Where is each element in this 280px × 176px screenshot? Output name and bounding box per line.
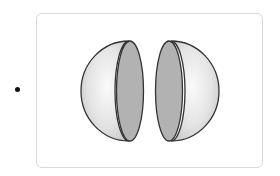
right-hemisphere (156, 41, 220, 141)
left-cross-section (117, 41, 144, 141)
left-hemisphere (81, 41, 144, 141)
right-cross-section (156, 41, 183, 141)
split-sphere-figure (0, 0, 280, 176)
